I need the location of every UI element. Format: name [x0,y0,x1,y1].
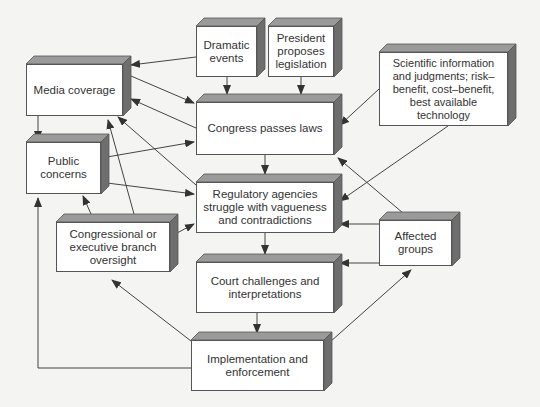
arrow-regulatory-to-media [118,117,196,185]
arrow-oversight-to-media [108,120,134,214]
node-congress-passes-laws: Congress passes laws [196,102,334,155]
node-label: Regulatory agencies struggle with vaguen… [196,182,334,233]
node-regulatory-agencies: Regulatory agencies struggle with vaguen… [196,182,334,233]
arrow-implementation-to-oversight [112,280,191,341]
node-label: Congress passes laws [196,102,334,155]
node-label: Congressional or executive branch oversi… [56,222,170,272]
node-implementation-enforcement: Implementation and enforcement [191,340,324,391]
node-label: Dramatic events [196,26,257,77]
arrow-public-to-congress [107,142,194,157]
node-label: President proposes legislation [268,26,334,77]
arrow-congress-to-media [131,99,196,128]
node-affected-groups: Affected groups [379,220,452,266]
arrow-oversight-to-public [83,196,91,214]
node-label: Scientific information and judgments; ri… [379,52,508,126]
arrow-media-to-congress [131,76,194,103]
node-congressional-oversight: Congressional or executive branch oversi… [56,222,170,272]
node-dramatic-events: Dramatic events [196,26,257,77]
node-label: Affected groups [379,220,452,266]
node-public-concerns: Public concerns [26,142,101,194]
arrow-public-to-regulatory [107,183,194,194]
arrow-oversight-to-regulatory [177,224,194,233]
node-media-coverage: Media coverage [26,64,123,116]
node-label: Implementation and enforcement [191,340,324,391]
arrow-dramatic-to-media [131,57,196,65]
node-label: Court challenges and interpretations [196,262,334,313]
node-president-proposes: President proposes legislation [268,26,334,77]
arrow-scientific-to-congress [340,89,379,125]
node-scientific-information: Scientific information and judgments; ri… [379,52,508,126]
node-court-challenges: Court challenges and interpretations [196,262,334,313]
arrow-affected-to-congress [338,158,403,213]
node-label: Public concerns [26,142,101,194]
arrow-scientific-to-regulatory [340,126,448,201]
node-label: Media coverage [26,64,123,116]
